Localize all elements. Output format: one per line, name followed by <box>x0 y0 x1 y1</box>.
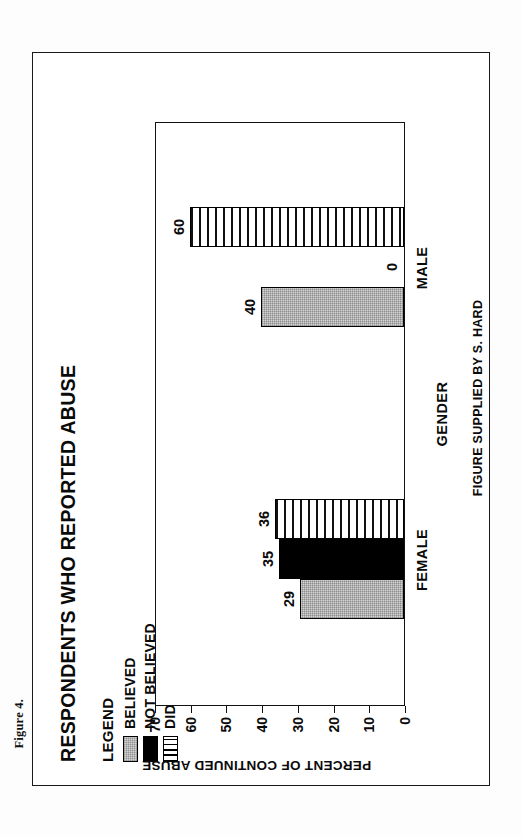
bar-female-didn-t-tell: 36 <box>275 499 404 539</box>
value-axis-tick <box>262 706 263 713</box>
value-axis-tick <box>155 706 156 713</box>
bar-female-believed: 29 <box>300 579 404 619</box>
bar-value-label: 40 <box>242 298 258 314</box>
bar-value-label: 29 <box>281 590 297 606</box>
figure-number-label: Figure 4. <box>12 679 27 749</box>
value-axis-title: PERCENT OF CONTINUED ABUSE <box>132 757 382 772</box>
value-axis-tick-label: 60 <box>183 717 199 743</box>
bar-female-not-believed: 35 <box>279 539 404 579</box>
legend-label-believed: BELIEVED <box>122 657 138 729</box>
value-axis-tick-label: 0 <box>397 717 413 743</box>
chart-title: RESPONDENTS WHO REPORTED ABUSE <box>57 364 80 761</box>
value-axis-tick <box>369 706 370 713</box>
plot-area: 29353640060 <box>155 122 405 706</box>
bar-value-label: 36 <box>256 510 272 526</box>
value-axis-tick-label: 40 <box>254 717 270 743</box>
source-note: FIGURE SUPPLIED BY S. HARD <box>471 118 485 678</box>
value-axis-tick <box>226 706 227 713</box>
legend-title: LEGEND <box>99 572 116 762</box>
legend-item-believed: BELIEVED <box>122 572 138 762</box>
category-label-female: FEMALE <box>414 528 430 590</box>
bar-male-didn-t-tell: 60 <box>190 207 404 247</box>
category-label-male: MALE <box>414 246 430 289</box>
value-axis-tick-label: 30 <box>290 717 306 743</box>
bar-value-label: 35 <box>260 550 276 566</box>
value-axis-tick-label: 50 <box>218 717 234 743</box>
value-axis-tick <box>298 706 299 713</box>
value-axis-tick <box>405 706 406 713</box>
rotated-chart-stage: RESPONDENTS WHO REPORTED ABUSE LEGEND BE… <box>51 68 471 768</box>
bar-value-label: 0 <box>384 262 400 270</box>
bar-value-label: 60 <box>171 218 187 234</box>
value-axis-tick <box>334 706 335 713</box>
value-axis-tick-label: 70 <box>147 717 163 743</box>
bar-male-believed: 40 <box>261 287 404 327</box>
scanned-page: Figure 4. RESPONDENTS WHO REPORTED ABUSE… <box>0 0 522 835</box>
value-axis-tick-label: 10 <box>361 717 377 743</box>
value-axis-tick <box>191 706 192 713</box>
category-axis-title: GENDER <box>434 122 450 706</box>
value-axis-tick-label: 20 <box>326 717 342 743</box>
